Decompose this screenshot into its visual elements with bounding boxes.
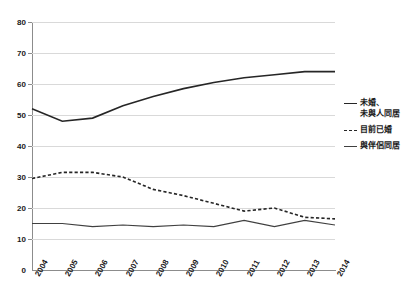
series-line-cohabiting: [32, 220, 335, 226]
legend-swatch-solid-icon: [344, 103, 357, 104]
y-tick-label: 50: [4, 112, 26, 120]
legend-item-married: 目前已婚: [344, 125, 418, 136]
y-tick-label: 20: [4, 205, 26, 213]
legend-label-line2: 未與人同居: [360, 109, 400, 118]
series-container: [32, 22, 335, 270]
y-tick-label: 60: [4, 81, 26, 89]
x-axis-line: [32, 270, 336, 271]
series-line-unmarried: [32, 72, 335, 122]
legend-label: 目前已婚: [360, 125, 418, 136]
legend-label-line1: 未婚、: [360, 98, 384, 107]
series-line-married: [32, 172, 335, 219]
legend-item-unmarried: 未婚、未與人同居: [344, 98, 418, 120]
y-tick-label: 30: [4, 174, 26, 182]
legend-swatch-thin-icon: [344, 146, 357, 147]
legend-swatch-dashed-icon: [344, 130, 357, 131]
legend-label: 與伴侶同居: [360, 141, 418, 152]
y-tick-label: 80: [4, 19, 26, 27]
legend-label: 未婚、未與人同居: [360, 98, 418, 120]
plot-area: [32, 22, 335, 270]
y-tick-label: 0: [4, 267, 26, 275]
y-tick-label: 70: [4, 50, 26, 58]
chart-legend: 未婚、未與人同居 目前已婚 與伴侶同居: [344, 98, 418, 157]
legend-item-cohabiting: 與伴侶同居: [344, 141, 418, 152]
y-tick-label: 10: [4, 236, 26, 244]
y-tick-label: 40: [4, 143, 26, 151]
line-chart: 80 70 60 50 40 30 20 10 0 2004 2005 2006…: [0, 0, 418, 303]
